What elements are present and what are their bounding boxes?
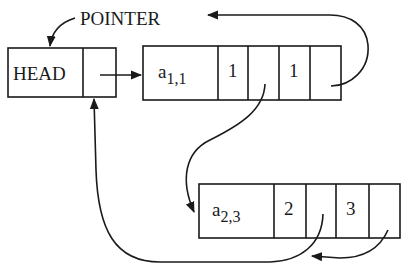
- node-a11: a1,1 1 1: [143, 46, 341, 100]
- node-a11-value: a1,1: [158, 61, 186, 87]
- head-node: HEAD: [8, 48, 116, 97]
- node-a23: a2,3 2 3: [199, 184, 400, 238]
- head-label: HEAD: [13, 63, 66, 84]
- node-a11-row: 1: [228, 60, 238, 81]
- pointer-label: POINTER: [80, 8, 161, 29]
- node-a11-col: 1: [289, 60, 299, 81]
- arrow-a23-col-link: [312, 230, 388, 258]
- node-a23-value: a2,3: [212, 199, 240, 225]
- node-a23-col: 3: [346, 198, 356, 219]
- arrow-a11-to-a23: [186, 84, 265, 212]
- arrow-pointer-to-head: [50, 18, 75, 46]
- value-subscript: 1,1: [166, 70, 186, 87]
- linked-list-diagram: POINTER HEAD a1,1 1 1 a2,3 2 3: [0, 0, 411, 274]
- node-a23-row: 2: [284, 198, 294, 219]
- value-subscript: 2,3: [220, 208, 240, 225]
